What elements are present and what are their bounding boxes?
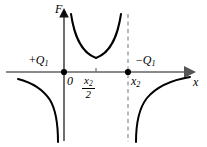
charge-negative-label: −Q1 — [136, 54, 156, 68]
midpoint-denominator: 2 — [82, 89, 95, 100]
charge-positive-label: +Q1 — [29, 54, 49, 68]
curve-branch-right — [136, 77, 190, 142]
origin-label: 0 — [67, 75, 73, 87]
x-axis-label: x — [193, 76, 198, 88]
midpoint-tick-label: x2 2 — [82, 75, 95, 100]
x2-tick-label: x2 — [131, 75, 140, 89]
curve-branch-left — [18, 79, 58, 142]
curve-branch-middle — [71, 14, 121, 58]
midpoint-numerator: x2 — [82, 75, 95, 89]
plot-canvas — [0, 0, 207, 147]
force-vs-position-figure: Fx x +Q1 −Q1 0 x2 x2 2 — [0, 0, 207, 147]
y-axis-label: Fx — [55, 3, 66, 17]
